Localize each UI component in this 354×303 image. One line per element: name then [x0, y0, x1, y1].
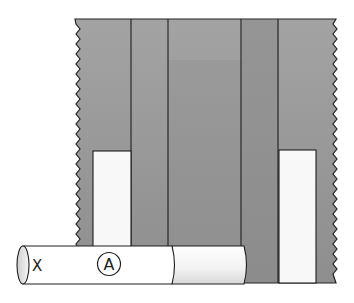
- white-bar-right: [279, 150, 316, 283]
- tube-translucent-section: [172, 246, 247, 284]
- diagram-canvas: X A: [0, 0, 354, 303]
- tube: X A: [17, 246, 247, 284]
- tube-body: [23, 246, 175, 284]
- white-bar-left: [93, 151, 131, 248]
- tube-end-opening: [17, 246, 29, 284]
- tube-end-label: X: [32, 257, 42, 275]
- circled-label: A: [104, 255, 115, 274]
